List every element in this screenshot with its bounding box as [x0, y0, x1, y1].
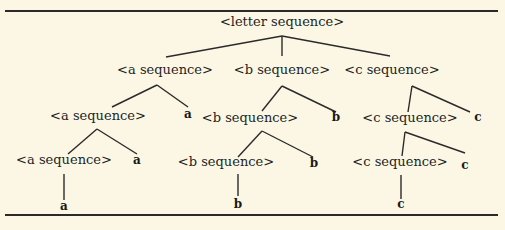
tree-edge-c1-c2: [408, 86, 412, 112]
tree-edge-root-c1: [282, 36, 390, 56]
terminal-leaf-b: b: [310, 156, 318, 170]
nonterminal-node-b1: <b sequence>: [234, 62, 330, 77]
tree-edge-b1-b2: [262, 86, 282, 111]
nonterminal-node-c1: <c sequence>: [344, 62, 439, 77]
nonterminal-node-c2: <c sequence>: [362, 110, 457, 125]
tree-edge-a2-a2t: [97, 129, 137, 154]
terminal-leaf-c: c: [461, 158, 468, 172]
nonterminal-node-a2: <a sequence>: [50, 108, 146, 123]
terminal-leaf-c: c: [397, 197, 404, 211]
terminal-leaf-b: b: [332, 110, 340, 124]
parse-tree-diagram: <letter sequence><a sequence><a sequence…: [0, 0, 505, 230]
nonterminal-node-root: <letter sequence>: [220, 14, 344, 29]
nonterminal-node-a1: <a sequence>: [117, 62, 213, 77]
tree-edge-c2-c2t: [405, 132, 465, 153]
terminal-leaf-b: b: [234, 197, 242, 211]
terminal-leaf-c: c: [474, 110, 481, 124]
tree-edge-a1-a2: [112, 85, 157, 107]
tree-edge-b1-b1t: [282, 86, 336, 112]
nonterminal-node-b3: <b sequence>: [178, 154, 274, 169]
terminal-leaf-a: a: [184, 107, 192, 121]
nonterminal-node-a3: <a sequence>: [16, 152, 112, 167]
terminal-leaf-a: a: [60, 199, 68, 213]
tree-edge-a2-a3: [68, 129, 97, 154]
tree-edge-a1-a1t: [157, 85, 188, 107]
tree-edge-c1-c1t: [412, 86, 470, 112]
nonterminal-node-b2: <b sequence>: [202, 110, 298, 125]
tree-edge-root-a1: [166, 36, 282, 57]
nonterminal-node-c3: <c sequence>: [352, 154, 447, 169]
tree-edge-c2-c3: [402, 132, 405, 156]
terminal-leaf-a: a: [133, 153, 141, 167]
